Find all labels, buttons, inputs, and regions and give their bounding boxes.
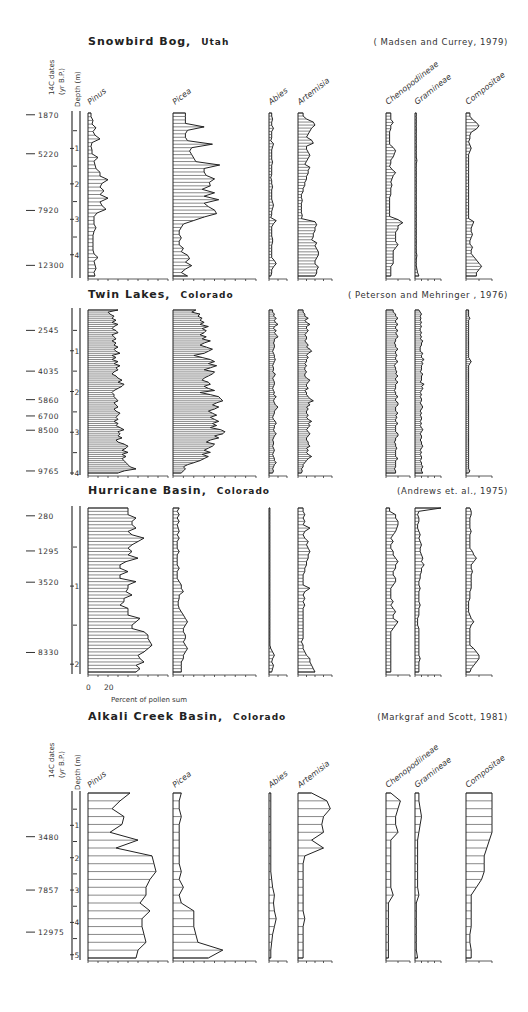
pollen-curve-pinus <box>88 113 168 281</box>
curve-outline <box>415 508 441 672</box>
percent-scale-legend: 020Percent of pollen sum <box>86 683 187 704</box>
site-title: Alkali Creek Basin,Colorado <box>88 710 286 723</box>
depth-tick-label: 1 <box>75 347 80 356</box>
citation: (Andrews et. al., 1975) <box>397 486 508 496</box>
pollen-curve-abies <box>269 793 287 963</box>
citation: ( Peterson and Mehringer , 1976) <box>348 290 508 300</box>
pollen-curve-picea <box>173 793 256 963</box>
radiocarbon-date: 1870 <box>38 111 59 120</box>
date-axis-label-units: (yr B.P.) <box>58 68 66 95</box>
curve-outline <box>298 793 330 958</box>
curve-outline <box>386 793 400 958</box>
pollen-curve-chenopodiineae <box>386 508 410 677</box>
pollen-curve-compositae <box>466 113 492 281</box>
pollen-curve-gramineae <box>415 310 441 478</box>
pollen-curve-chenopodiineae <box>386 113 410 281</box>
scale-label-twenty: 20 <box>104 683 114 692</box>
radiocarbon-date: 9765 <box>38 467 59 476</box>
citation: ( Madsen and Currey, 1979) <box>373 37 508 47</box>
pollen-curve-compositae <box>466 310 492 478</box>
depth-tick-label: 4 <box>75 251 80 260</box>
radiocarbon-date: 12300 <box>38 261 64 270</box>
depth-tick-label: 5 <box>75 951 80 960</box>
pollen-curve-chenopodiineae <box>386 793 410 963</box>
pollen-curve-artemisia <box>298 793 332 963</box>
pollen-curve-abies <box>269 113 287 281</box>
pollen-curve-compositae <box>466 508 492 677</box>
radiocarbon-date: 3480 <box>38 833 59 842</box>
site-panel: Twin Lakes,Colorado( Peterson and Mehrin… <box>26 288 508 478</box>
site-title: Snowbird Bog,Utah <box>88 35 229 48</box>
radiocarbon-date: 4035 <box>38 367 59 376</box>
taxon-label-picea: Picea <box>171 769 193 789</box>
depth-tick-label: 2 <box>75 660 80 669</box>
site-title: Twin Lakes,Colorado <box>88 288 234 301</box>
curve-outline <box>88 508 152 672</box>
pollen-curve-gramineae <box>415 113 441 281</box>
site-panel: Snowbird Bog,Utah( Madsen and Currey, 19… <box>26 35 508 281</box>
pollen-curve-compositae <box>466 793 492 963</box>
taxon-label-pinus: Pinus <box>86 769 108 789</box>
depth-tick-label: 1 <box>75 144 80 153</box>
pollen-curve-pinus <box>88 508 168 677</box>
radiocarbon-date: 7920 <box>38 206 59 215</box>
pollen-curve-abies <box>269 508 287 677</box>
depth-tick-label: 1 <box>75 582 80 591</box>
curve-outline <box>173 793 223 958</box>
radiocarbon-date: 1295 <box>38 547 59 556</box>
pollen-curve-picea <box>173 113 256 281</box>
date-axis-label: 14C dates <box>48 742 56 778</box>
curve-outline <box>386 508 398 672</box>
curve-outline <box>298 508 315 672</box>
pollen-curve-gramineae <box>415 793 441 963</box>
pollen-curve-picea <box>173 508 256 677</box>
depth-tick-label: 2 <box>75 388 80 397</box>
curve-outline <box>269 508 274 672</box>
depth-tick-label: 4 <box>75 918 80 927</box>
depth-tick-label: 4 <box>75 469 80 478</box>
site-title: Hurricane Basin,Colorado <box>88 484 270 497</box>
pollen-curve-pinus <box>88 793 168 963</box>
date-axis-label-units: (yr B.P.) <box>58 751 66 778</box>
site-panel: Alkali Creek Basin,Colorado(Markgraf and… <box>26 710 508 963</box>
pollen-curve-chenopodiineae <box>386 310 410 478</box>
taxon-label-compositae: Compositae <box>464 753 507 789</box>
taxon-label-pinus: Pinus <box>86 86 108 106</box>
citation: (Markgraf and Scott, 1981) <box>377 712 508 722</box>
radiocarbon-date: 2545 <box>38 326 59 335</box>
curve-outline <box>269 793 276 958</box>
taxon-label-picea: Picea <box>171 86 193 106</box>
pollen-curve-picea <box>173 310 256 478</box>
pollen-diagram-figure: Snowbird Bog,Utah( Madsen and Currey, 19… <box>0 0 528 1012</box>
taxon-label-compositae: Compositae <box>464 70 507 106</box>
depth-axis-label: Depth (m) <box>74 754 82 790</box>
depth-tick-label: 3 <box>75 215 80 224</box>
curve-outline <box>466 793 492 958</box>
depth-tick-label: 1 <box>75 821 80 830</box>
scale-label-zero: 0 <box>86 683 91 692</box>
radiocarbon-date: 8330 <box>38 648 59 657</box>
depth-tick-label: 3 <box>75 886 80 895</box>
depth-tick-label: 3 <box>75 428 80 437</box>
depth-tick-label: 2 <box>75 854 80 863</box>
radiocarbon-date: 12975 <box>38 928 64 937</box>
pollen-curve-artemisia <box>298 310 332 478</box>
radiocarbon-date: 5220 <box>38 150 59 159</box>
pollen-curve-gramineae <box>415 508 441 677</box>
pollen-curve-artemisia <box>298 113 332 281</box>
depth-tick-label: 2 <box>75 180 80 189</box>
date-axis-label: 14C dates <box>48 59 56 95</box>
curve-outline <box>466 113 482 276</box>
curve-outline <box>88 793 156 958</box>
pollen-curve-pinus <box>88 310 168 478</box>
site-panel: Hurricane Basin,Colorado(Andrews et. al.… <box>26 484 508 677</box>
pollen-curve-artemisia <box>298 508 332 677</box>
taxon-label-abies: Abies <box>266 86 290 107</box>
pollen-curve-abies <box>269 310 287 478</box>
radiocarbon-date: 3520 <box>38 578 59 587</box>
radiocarbon-date: 280 <box>38 512 54 521</box>
radiocarbon-date: 6700 <box>38 412 59 421</box>
taxon-label-artemisia: Artemisia <box>295 759 331 790</box>
radiocarbon-date: 5860 <box>38 396 59 405</box>
scale-caption: Percent of pollen sum <box>111 696 187 704</box>
